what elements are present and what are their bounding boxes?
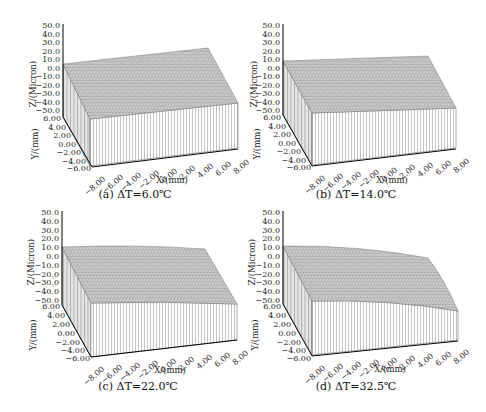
z-axis-label: Z/(Micron) bbox=[26, 239, 36, 285]
z-axis-label: Z/(Micron) bbox=[247, 239, 257, 285]
svg-text:4.00: 4.00 bbox=[268, 311, 286, 320]
svg-text:4.00: 4.00 bbox=[416, 161, 435, 179]
svg-text:−6.00: −6.00 bbox=[286, 354, 311, 363]
y-axis-label: Y/(mm) bbox=[250, 319, 260, 351]
panel-d: 50.0 40.0 30.0 20.0 10.0 0.0 −10.0 −20.0… bbox=[247, 208, 471, 393]
panel-c: 50.0 40.0 30.0 20.0 10.0 0.0 −10.0 −20.0… bbox=[26, 208, 250, 393]
z-axis-label: Z/(Micron) bbox=[249, 61, 259, 107]
svg-text:8.00: 8.00 bbox=[232, 158, 251, 176]
caption-b: (b) ΔT=14.0℃ bbox=[316, 188, 396, 201]
x-axis-label: X/(mm) bbox=[154, 365, 186, 375]
svg-text:0.00: 0.00 bbox=[57, 329, 75, 338]
svg-text:4.00: 4.00 bbox=[416, 352, 435, 370]
svg-text:−6.00: −6.00 bbox=[65, 354, 90, 363]
svg-text:−20.0: −20.0 bbox=[34, 270, 59, 279]
svg-text:4.00: 4.00 bbox=[47, 311, 65, 320]
svg-text:2.00: 2.00 bbox=[52, 320, 70, 329]
svg-text:−30.0: −30.0 bbox=[255, 278, 280, 287]
panel-a: 50.0 40.0 30.0 20.0 10.0 0.0 −10.0 −20.0… bbox=[28, 21, 251, 201]
x-axis-label: X/(mm) bbox=[156, 175, 188, 185]
svg-text:−6.00: −6.00 bbox=[286, 163, 311, 172]
surface-mesh bbox=[62, 246, 237, 304]
z-axis-label: Z/(Micron) bbox=[28, 61, 38, 107]
svg-text:0.0: 0.0 bbox=[46, 252, 59, 261]
svg-text:6.00: 6.00 bbox=[42, 302, 60, 311]
caption-c: (c) ΔT=22.0℃ bbox=[98, 380, 178, 393]
svg-text:−10.0: −10.0 bbox=[34, 261, 59, 270]
svg-text:8.00: 8.00 bbox=[231, 349, 250, 367]
svg-text:30.0: 30.0 bbox=[262, 226, 280, 235]
panel-b: 50.0 40.0 30.0 20.0 10.0 0.0 −10.0 −20.0… bbox=[249, 21, 471, 201]
svg-text:8.00: 8.00 bbox=[452, 348, 471, 366]
svg-text:6.00: 6.00 bbox=[214, 160, 233, 178]
caption-d: (d) ΔT=32.5℃ bbox=[316, 380, 396, 393]
svg-text:−40.0: −40.0 bbox=[34, 287, 59, 296]
front-face bbox=[312, 108, 456, 165]
svg-text:2.00: 2.00 bbox=[273, 320, 291, 329]
z-ticks-b: 50.0 40.0 30.0 20.0 10.0 0.0 −10.0 −20.0… bbox=[255, 21, 280, 115]
svg-text:4.00: 4.00 bbox=[195, 353, 214, 371]
y-axis-label: Y/(mm) bbox=[252, 128, 262, 160]
front-face bbox=[312, 301, 458, 355]
svg-text:−30.0: −30.0 bbox=[34, 278, 59, 287]
svg-text:−10.0: −10.0 bbox=[255, 261, 280, 270]
svg-text:8.00: 8.00 bbox=[452, 157, 471, 175]
caption-a: (a) ΔT=6.0℃ bbox=[99, 188, 172, 201]
svg-text:30.0: 30.0 bbox=[41, 226, 59, 235]
svg-text:6.00: 6.00 bbox=[434, 159, 453, 177]
svg-text:−6.00: −6.00 bbox=[66, 164, 91, 173]
svg-text:6.00: 6.00 bbox=[434, 350, 453, 368]
svg-text:20.0: 20.0 bbox=[41, 234, 59, 243]
svg-text:6.00: 6.00 bbox=[263, 302, 281, 311]
svg-text:20.0: 20.0 bbox=[262, 234, 280, 243]
surface-mesh bbox=[283, 56, 456, 113]
svg-text:50.0: 50.0 bbox=[41, 208, 59, 217]
svg-text:6.00: 6.00 bbox=[213, 351, 232, 369]
z-ticks-c: 50.0 40.0 30.0 20.0 10.0 0.0 −10.0 −20.0… bbox=[34, 208, 59, 305]
svg-text:10.0: 10.0 bbox=[262, 243, 280, 252]
svg-text:−20.0: −20.0 bbox=[255, 270, 280, 279]
svg-text:40.0: 40.0 bbox=[41, 217, 59, 226]
svg-text:0.00: 0.00 bbox=[278, 329, 296, 338]
y-axis-label: Y/(mm) bbox=[28, 319, 38, 351]
svg-text:0.0: 0.0 bbox=[267, 252, 280, 261]
x-axis-label: X/(mm) bbox=[376, 175, 408, 185]
svg-text:−40.0: −40.0 bbox=[255, 287, 280, 296]
svg-text:4.00: 4.00 bbox=[196, 162, 215, 180]
figure: 50.0 40.0 30.0 20.0 10.0 0.0 −10.0 −20.0… bbox=[0, 0, 486, 412]
y-axis-label: Y/(mm) bbox=[30, 128, 40, 160]
z-ticks-a: 50.0 40.0 30.0 20.0 10.0 0.0 −10.0 −20.0… bbox=[35, 21, 60, 115]
z-ticks-d: 50.0 40.0 30.0 20.0 10.0 0.0 −10.0 −20.0… bbox=[255, 208, 280, 305]
x-axis-label: X/(mm) bbox=[374, 364, 406, 374]
svg-text:50.0: 50.0 bbox=[262, 208, 280, 217]
svg-text:10.0: 10.0 bbox=[41, 243, 59, 252]
svg-text:40.0: 40.0 bbox=[262, 217, 280, 226]
